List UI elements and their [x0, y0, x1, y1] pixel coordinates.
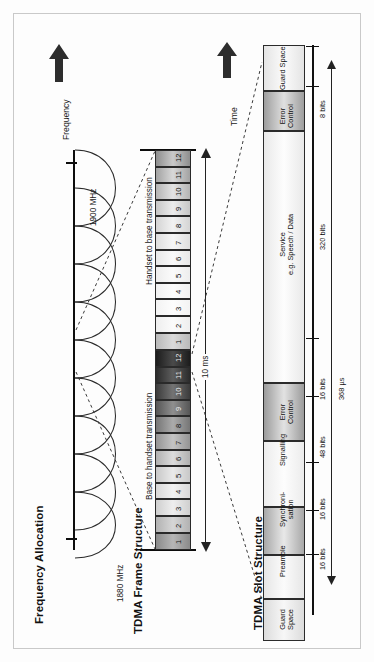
frame-slot-number: 1	[174, 540, 183, 544]
frame-slot-number: 12	[174, 154, 183, 162]
frame-slot-number: 9	[174, 407, 183, 411]
frame-slot[interactable]	[155, 416, 191, 433]
frame-slot[interactable]	[155, 216, 191, 233]
bits-axis-line	[312, 45, 314, 615]
diagram-page: Frequency Allocation TDMA Frame Structur…	[0, 0, 374, 662]
frame-slot[interactable]	[155, 299, 191, 316]
slot-field-label: Servicee.g. Speech / Data	[279, 214, 296, 275]
frame-slot-number: 4	[174, 290, 183, 294]
frame-slot[interactable]	[155, 400, 191, 417]
frame-slot-number: 8	[174, 424, 183, 428]
bits-label-16-ec: 16 bits	[318, 378, 327, 400]
label-1880mhz: 1880 MHz	[117, 565, 125, 602]
frame-slot-number: 8	[174, 224, 183, 228]
frame-slot[interactable]	[155, 499, 191, 516]
label-slot-duration: 368 µs	[337, 376, 346, 402]
frame-slot-number: 9	[174, 207, 183, 211]
dimension-arrow-down-icon	[326, 574, 337, 585]
frame-duration-dimension-line	[205, 150, 206, 550]
bits-label-48: 48 bits	[318, 436, 327, 458]
tdma-frame-band	[155, 150, 191, 550]
frequency-axis-line	[73, 150, 75, 550]
bits-label-320: 320 bits	[318, 224, 327, 250]
frame-slot-number: 2	[174, 524, 183, 528]
slot-field-label: ErrorControl	[279, 400, 296, 424]
slot-field-signalling-label: Signalling	[278, 434, 287, 466]
section-title-frequency-allocation: Frequency Allocation	[34, 505, 46, 624]
frame-slot[interactable]	[155, 183, 191, 200]
bits-label-8: 8 bits	[318, 100, 327, 118]
frame-slot[interactable]	[155, 483, 191, 500]
frame-slot-number: 11	[174, 371, 183, 379]
frame-slot[interactable]	[155, 433, 191, 450]
frame-slot[interactable]	[155, 333, 191, 350]
time-axis-label: Time	[230, 107, 239, 126]
frame-slot[interactable]	[155, 266, 191, 283]
frame-slot[interactable]	[155, 200, 191, 217]
frame-slot-number: 2	[174, 324, 183, 328]
frame-slot[interactable]	[155, 466, 191, 483]
dimension-arrow-up-icon	[326, 60, 337, 71]
frame-slot[interactable]	[155, 533, 191, 550]
frame-slot[interactable]	[155, 283, 191, 300]
frame-slot-number: 6	[174, 257, 183, 261]
frequency-up-arrow-icon	[48, 44, 70, 82]
label-frame-duration: 10 ms	[202, 354, 210, 380]
tick-1880mhz	[66, 538, 77, 540]
frame-slot[interactable]	[155, 167, 191, 184]
frame-slot-number: 5	[174, 274, 183, 278]
frame-slot-number: 1	[174, 340, 183, 344]
frame-slot-number: 10	[174, 188, 183, 196]
dimension-arrow-up-icon	[200, 148, 212, 160]
frame-slot-number: 7	[174, 241, 183, 245]
frame-slot-number: 5	[174, 474, 183, 478]
frame-slot[interactable]	[155, 367, 191, 384]
frame-slot-number: 12	[174, 354, 183, 362]
label-handset-to-base: Handset to base transmission	[146, 177, 154, 285]
time-up-arrow-icon	[216, 42, 238, 78]
carrier-lobes	[73, 140, 135, 560]
bits-tick	[306, 462, 319, 463]
frame-slot[interactable]	[155, 233, 191, 250]
frame-slot-number: 3	[174, 507, 183, 511]
bits-tick	[306, 86, 319, 87]
frame-slot[interactable]	[155, 250, 191, 267]
frame-slot[interactable]	[155, 383, 191, 400]
slot-field-label: ErrorControl	[279, 104, 296, 128]
slot-field-label: Preamble	[279, 545, 287, 577]
slot-field-label: Synchroni-sation	[279, 492, 296, 527]
slot-field-label: Guard Space	[279, 46, 287, 90]
frequency-axis-label: Frequency	[62, 99, 71, 140]
frame-slot-number: 11	[174, 171, 183, 179]
bits-label-16-sync: 16 bits	[318, 498, 327, 520]
frame-slot[interactable]	[155, 350, 191, 367]
bits-tick	[306, 338, 319, 339]
frame-slot[interactable]	[155, 150, 191, 167]
frame-slot-number: 4	[174, 490, 183, 494]
slot-field-label: Signalling	[279, 434, 287, 466]
frame-slot-number: 3	[174, 307, 183, 311]
frame-slot-number: 10	[174, 388, 183, 396]
slot-field-guard-space-end-label: Guard Space	[278, 46, 287, 90]
slot-field-preamble-label: Preamble	[278, 545, 287, 577]
bits-label-16-preamble: 16 bits	[318, 548, 327, 570]
dimension-arrow-down-icon	[200, 540, 212, 552]
frame-slot[interactable]	[155, 316, 191, 333]
label-1900mhz: 1900 MHz	[90, 189, 98, 226]
frame-slot-number: 7	[174, 441, 183, 445]
bits-tick	[306, 46, 319, 47]
label-base-to-handset: Base to handset transmission	[146, 393, 154, 500]
slot-duration-dimension-line	[331, 62, 332, 582]
tick-1900mhz	[66, 162, 77, 164]
slot-field-label: GuardSpace	[279, 609, 296, 630]
frame-slot-number: 6	[174, 457, 183, 461]
tdma-slot-band	[263, 45, 305, 615]
frame-slot[interactable]	[155, 516, 191, 533]
frame-slot[interactable]	[155, 450, 191, 467]
